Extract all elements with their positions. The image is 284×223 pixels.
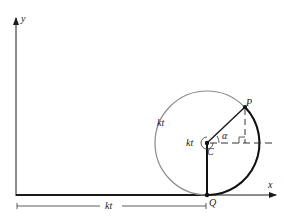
right-angle-marker <box>239 137 245 143</box>
alpha-arc <box>217 136 219 143</box>
rotation-label: kt <box>186 137 193 148</box>
y-axis-label: y <box>20 13 26 24</box>
point-c <box>205 141 209 145</box>
distance-label: kt <box>105 200 112 211</box>
traced-arc <box>207 107 259 195</box>
point-p-label: P <box>245 97 252 108</box>
cycloid-diagram: y x α kt kt C P Q kt <box>0 0 284 223</box>
point-q-label: Q <box>209 197 217 208</box>
arc-length-label: kt <box>157 117 164 128</box>
x-axis-label: x <box>267 179 273 190</box>
point-c-label: C <box>207 146 214 157</box>
alpha-label: α <box>222 130 228 141</box>
